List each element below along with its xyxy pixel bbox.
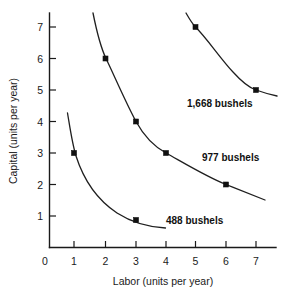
axes-group xyxy=(50,13,277,248)
x-tick-label-0: 0 xyxy=(42,255,48,267)
data-point-977-6-2 xyxy=(224,182,229,187)
y-axis-tick-labels: 7 6 5 4 3 2 1 xyxy=(37,21,43,222)
isoquant-chart-figure: 7 6 5 4 3 2 1 0 1 2 3 4 5 6 7 xyxy=(0,0,282,296)
data-point-1668-7-5 xyxy=(254,88,259,93)
y-axis-title: Capital (units per year) xyxy=(7,78,19,184)
x-tick-label-7: 7 xyxy=(253,255,259,267)
x-tick-label-1: 1 xyxy=(71,255,77,267)
isoquant-curve-488 xyxy=(68,113,166,228)
data-point-488-1-3 xyxy=(72,151,77,156)
x-axis-ticks xyxy=(74,241,256,248)
data-markers-488 xyxy=(72,151,139,223)
x-tick-label-2: 2 xyxy=(103,255,109,267)
x-tick-label-5: 5 xyxy=(193,255,199,267)
x-axis-title: Labor (units per year) xyxy=(113,275,213,287)
curve-label-1668: 1,668 bushels xyxy=(187,98,253,109)
data-point-1668-5-7 xyxy=(193,25,198,30)
data-point-488-3-1 xyxy=(134,218,139,223)
x-axis-tick-labels: 0 1 2 3 4 5 6 7 xyxy=(42,255,259,267)
x-tick-label-6: 6 xyxy=(223,255,229,267)
y-tick-label-7: 7 xyxy=(37,21,43,33)
y-tick-label-6: 6 xyxy=(37,53,43,65)
chart-canvas: 7 6 5 4 3 2 1 0 1 2 3 4 5 6 7 xyxy=(0,0,282,296)
y-tick-label-5: 5 xyxy=(37,84,43,96)
x-tick-label-4: 4 xyxy=(163,255,169,267)
data-point-977-3-4 xyxy=(134,119,139,124)
y-tick-label-3: 3 xyxy=(37,147,43,159)
data-point-977-4-3 xyxy=(164,151,169,156)
y-tick-label-2: 2 xyxy=(37,179,43,191)
curve-label-488: 488 bushels xyxy=(166,215,224,226)
isoquant-curve-1668 xyxy=(186,13,277,96)
y-tick-label-1: 1 xyxy=(37,210,43,222)
y-axis-ticks xyxy=(50,27,57,216)
data-point-977-2-6 xyxy=(103,56,108,61)
curve-label-977: 977 bushels xyxy=(202,152,260,163)
y-tick-label-4: 4 xyxy=(37,116,43,128)
x-tick-label-3: 3 xyxy=(133,255,139,267)
data-markers-977 xyxy=(103,56,229,187)
